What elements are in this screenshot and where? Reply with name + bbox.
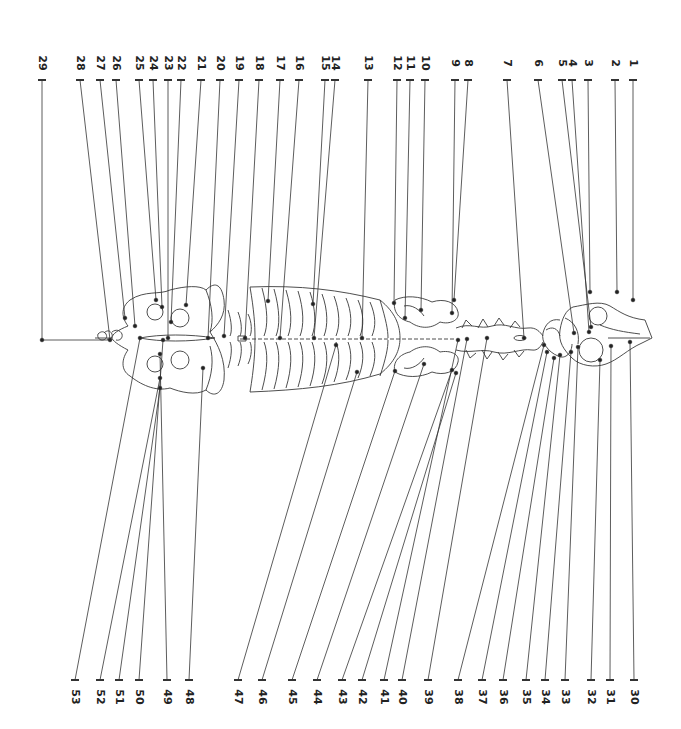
leader-40 [398,337,469,680]
label-3: 3 [581,52,595,74]
leader-48 [185,366,205,680]
leader-23 [164,80,172,340]
label-12: 12 [390,52,404,74]
label-8: 8 [461,52,475,74]
leader-13 [360,80,372,340]
leader-34 [541,350,573,680]
label-2: 2 [608,52,622,74]
label-16: 16 [292,52,306,74]
leader-47 [234,343,338,680]
skeleton-outline [95,285,652,394]
leader-lines [38,80,638,680]
label-46: 46 [255,686,269,708]
leader-29 [38,80,112,342]
label-40: 40 [395,686,409,708]
label-19: 19 [232,52,246,74]
label-13: 13 [361,52,375,74]
leader-36 [499,356,556,680]
label-20: 20 [213,52,227,74]
label-34: 34 [538,686,552,708]
leader-32 [587,358,602,680]
leader-15 [311,80,329,306]
label-48: 48 [182,686,196,708]
leader-6 [534,80,576,335]
label-15: 15 [318,52,332,74]
label-30: 30 [627,686,641,708]
leader-20 [206,80,224,340]
label-37: 37 [475,686,489,708]
leader-10 [419,80,429,312]
skeleton-drawing [0,0,681,729]
label-50: 50 [132,686,146,708]
label-28: 28 [73,52,87,74]
leader-21 [184,80,205,307]
label-38: 38 [451,686,465,708]
label-51: 51 [112,686,126,708]
label-41: 41 [377,686,391,708]
leader-37 [478,350,549,680]
leader-14 [312,80,339,340]
leader-9 [450,80,459,315]
leader-49 [158,352,171,680]
label-53: 53 [68,686,82,708]
leader-17 [266,80,284,303]
leader-11 [403,80,414,320]
leader-26 [112,80,137,328]
leader-33 [561,345,580,680]
leader-5 [558,80,593,329]
leader-24 [149,80,164,309]
label-25: 25 [132,52,146,74]
leader-42 [358,371,458,680]
leader-38 [454,343,546,680]
label-26: 26 [109,52,123,74]
label-29: 29 [35,52,49,74]
leader-12 [392,80,401,305]
leader-41 [380,338,460,680]
label-1: 1 [626,52,640,74]
leader-27 [96,80,127,320]
label-47: 47 [231,686,245,708]
label-10: 10 [418,52,432,74]
label-17: 17 [273,52,287,74]
leader-51 [115,386,162,680]
label-7: 7 [500,52,514,74]
label-36: 36 [496,686,510,708]
label-23: 23 [161,52,175,74]
label-21: 21 [194,52,208,74]
label-43: 43 [335,686,349,708]
leader-39 [424,336,489,680]
label-18: 18 [252,52,266,74]
label-6: 6 [531,52,545,74]
leader-31 [606,344,614,680]
label-42: 42 [355,686,369,708]
label-11: 11 [403,52,417,74]
label-35: 35 [519,686,533,708]
leader-19 [222,80,243,338]
label-24: 24 [146,52,160,74]
leader-3 [584,80,592,294]
leader-35 [522,353,562,680]
leader-53 [71,336,142,680]
label-45: 45 [285,686,299,708]
leader-16 [278,80,303,340]
leader-7 [503,80,526,340]
leader-18 [243,80,263,340]
skeleton-diagram: 1234567891011121314151617181920212223242… [0,0,681,729]
label-33: 33 [558,686,572,708]
label-39: 39 [421,686,435,708]
leader-28 [76,80,112,342]
label-22: 22 [174,52,188,74]
leader-44 [313,362,426,680]
label-44: 44 [310,686,324,708]
label-49: 49 [160,686,174,708]
leader-1 [629,80,637,302]
label-9: 9 [448,52,462,74]
leader-30 [628,340,638,680]
label-5: 5 [555,52,569,74]
label-52: 52 [93,686,107,708]
scapulae [394,297,458,377]
label-27: 27 [93,52,107,74]
leader-2 [611,80,619,294]
leader-45 [288,369,397,680]
leader-8 [452,80,472,302]
